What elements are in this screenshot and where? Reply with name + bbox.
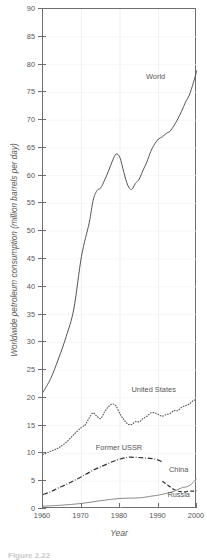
- figure-container: Worldwide petroleum consumption (million…: [0, 0, 207, 560]
- series-label-russia: Russia: [167, 490, 190, 499]
- series-line-former-ussr: [43, 457, 162, 494]
- y-tick-mark-inner: [42, 397, 46, 398]
- y-tick-mark-inner: [42, 508, 46, 509]
- y-tick-mark-inner: [42, 147, 46, 148]
- series-label-china: China: [169, 465, 188, 474]
- y-tick-label: 0: [13, 504, 35, 513]
- y-tick-label: 90: [13, 4, 35, 13]
- y-tick-mark-inner: [42, 425, 46, 426]
- y-tick-label: 70: [13, 115, 35, 124]
- x-tick-mark: [158, 503, 159, 508]
- series-label-world: World: [146, 72, 165, 81]
- y-tick-label: 85: [13, 32, 35, 41]
- figure-caption: Figure 2.22: [8, 551, 50, 560]
- y-tick-mark-inner: [42, 452, 46, 453]
- y-tick-label: 35: [13, 310, 35, 319]
- x-axis-title: Year: [42, 528, 196, 538]
- y-tick-mark-inner: [42, 286, 46, 287]
- y-tick-label: 75: [13, 87, 35, 96]
- x-tick-mark: [196, 503, 197, 508]
- y-tick-mark-inner: [42, 64, 46, 65]
- series-label-former-ussr: Former USSR: [96, 443, 142, 452]
- chart-canvas: [43, 9, 197, 509]
- y-tick-label: 30: [13, 337, 35, 346]
- x-tick-mark: [119, 503, 120, 508]
- y-tick-label: 5: [13, 476, 35, 485]
- y-tick-mark-inner: [42, 175, 46, 176]
- y-tick-label: 20: [13, 393, 35, 402]
- y-tick-label: 65: [13, 143, 35, 152]
- series-label-united-states: United States: [131, 385, 175, 394]
- y-tick-label: 60: [13, 171, 35, 180]
- y-tick-label: 15: [13, 421, 35, 430]
- y-tick-mark-inner: [42, 91, 46, 92]
- y-tick-mark-inner: [42, 480, 46, 481]
- x-tick-label: 1990: [149, 511, 165, 520]
- y-tick-label: 10: [13, 448, 35, 457]
- y-tick-mark-inner: [42, 119, 46, 120]
- y-tick-mark-inner: [42, 314, 46, 315]
- y-tick-label: 80: [13, 60, 35, 69]
- y-tick-mark-inner: [42, 202, 46, 203]
- y-tick-mark-inner: [42, 230, 46, 231]
- y-tick-label: 55: [13, 198, 35, 207]
- x-tick-label: 2000: [188, 511, 204, 520]
- y-tick-mark-inner: [42, 8, 46, 9]
- x-tick-mark: [81, 503, 82, 508]
- y-tick-label: 25: [13, 365, 35, 374]
- y-tick-mark-inner: [42, 258, 46, 259]
- x-tick-mark: [42, 503, 43, 508]
- y-tick-label: 50: [13, 226, 35, 235]
- y-tick-label: 40: [13, 282, 35, 291]
- x-tick-label: 1970: [72, 511, 88, 520]
- plot-area: [42, 8, 196, 508]
- x-tick-label: 1980: [111, 511, 127, 520]
- y-tick-mark-inner: [42, 36, 46, 37]
- y-tick-mark-inner: [42, 341, 46, 342]
- y-tick-label: 45: [13, 254, 35, 263]
- y-tick-mark-inner: [42, 369, 46, 370]
- x-tick-label: 1960: [34, 511, 50, 520]
- gridlines: [43, 9, 197, 509]
